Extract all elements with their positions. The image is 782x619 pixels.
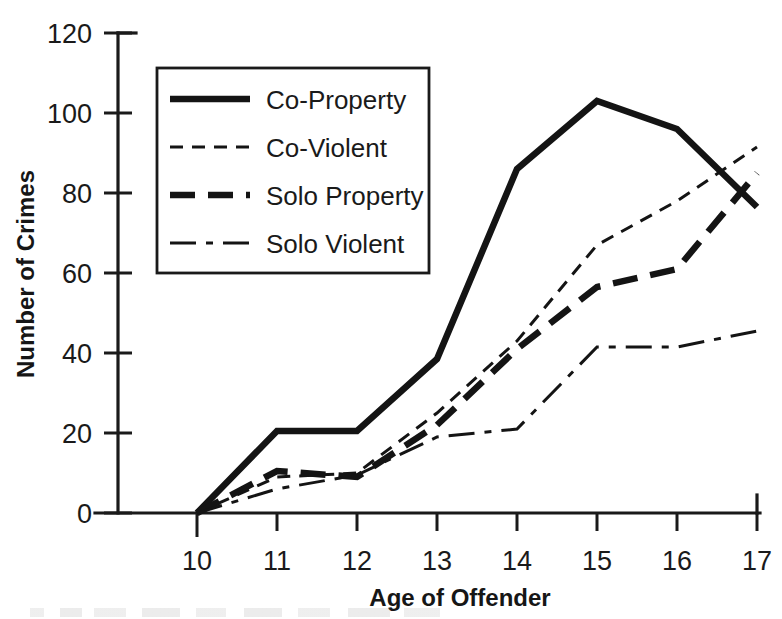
page-footer-artifact <box>30 608 470 617</box>
y-tick-label-120: 120 <box>47 19 92 49</box>
x-tick-label-15: 15 <box>582 546 612 576</box>
y-tick-label-20: 20 <box>62 419 92 449</box>
x-tick-label-11: 11 <box>263 546 291 576</box>
x-tick-label-10: 10 <box>182 546 212 576</box>
x-tick-label-12: 12 <box>342 546 372 576</box>
line-chart: 0 20 40 60 80 100 120 10 11 12 13 14 15 <box>0 0 782 619</box>
y-tick-label-40: 40 <box>62 339 92 369</box>
x-tick-labels-group: 10 11 12 13 14 15 16 17 <box>182 546 772 576</box>
legend: Co-Property Co-Violent Solo Property Sol… <box>157 68 429 273</box>
x-tick-label-16: 16 <box>662 546 692 576</box>
y-tick-label-60: 60 <box>62 259 92 289</box>
x-tick-label-13: 13 <box>422 546 452 576</box>
legend-label-solo-property: Solo Property <box>266 181 424 211</box>
x-tick-label-14: 14 <box>502 546 532 576</box>
x-axis-title: Age of Offender <box>369 584 550 611</box>
y-tick-label-100: 100 <box>47 99 92 129</box>
legend-label-co-property: Co-Property <box>266 85 406 115</box>
y-tick-label-0: 0 <box>77 499 92 529</box>
series-path-solo-violent <box>197 331 757 513</box>
chart-page: 0 20 40 60 80 100 120 10 11 12 13 14 15 <box>0 0 782 619</box>
y-tick-labels-group: 0 20 40 60 80 100 120 <box>47 19 92 529</box>
y-tick-label-80: 80 <box>62 179 92 209</box>
legend-label-co-violent: Co-Violent <box>266 133 388 163</box>
legend-label-solo-violent: Solo Violent <box>266 229 405 259</box>
x-ticks-group <box>197 513 757 537</box>
x-tick-label-17: 17 <box>742 546 772 576</box>
y-axis-title: Number of Crimes <box>12 170 39 378</box>
